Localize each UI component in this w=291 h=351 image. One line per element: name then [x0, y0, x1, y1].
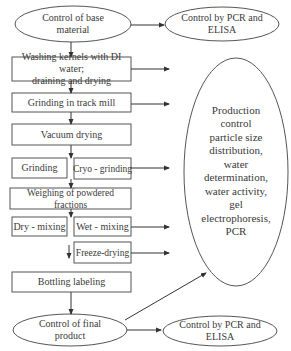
final-product-label: Control of final product — [18, 315, 122, 345]
grinding-mill-label: Grinding in track mill — [12, 93, 131, 112]
cryo-label: Cryo - grinding — [72, 158, 133, 179]
production-control-label: Production control particle size distrib… — [188, 100, 284, 242]
bottling-label: Bottling labeling — [12, 272, 131, 292]
weighing-label: Weighing of powdered fractions — [10, 188, 131, 209]
bottom-control-label: Control by PCR and ELISA — [166, 316, 274, 346]
wet-mixing-label: Wet - mixing — [74, 217, 131, 236]
dry-mixing-label: Dry - mixing — [12, 217, 67, 236]
vacuum-label: Vacuum drying — [12, 124, 131, 145]
base-material-label: Control of base material — [20, 8, 126, 40]
washing-label: Washing kernels with DI water; draining … — [12, 57, 131, 81]
grinding-label: Grinding — [12, 158, 67, 178]
freeze-drying-label: Freeze-drying — [74, 242, 131, 263]
top-control-label: Control by PCR and ELISA — [168, 8, 276, 40]
